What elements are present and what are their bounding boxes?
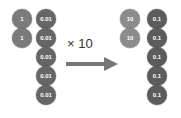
- counter-tenth: 0.1: [147, 85, 167, 105]
- after-tens-column: 1010: [120, 9, 140, 47]
- before-hundredths-column: 0.010.010.010.010.01: [36, 9, 56, 104]
- counter-hundredth: 0.01: [36, 28, 56, 48]
- multiply-label: × 10: [67, 36, 93, 51]
- before-ones-column: 11: [12, 9, 32, 47]
- counter-tenth: 0.1: [147, 66, 167, 86]
- counter-ten: 10: [120, 28, 140, 48]
- counter-hundredth: 0.01: [36, 47, 56, 67]
- counter-tenth: 0.1: [147, 9, 167, 29]
- counter-ten: 10: [120, 9, 140, 29]
- counter-one: 1: [12, 28, 32, 48]
- counter-tenth: 0.1: [147, 28, 167, 48]
- counter-tenth: 0.1: [147, 47, 167, 67]
- counter-hundredth: 0.01: [36, 9, 56, 29]
- counter-hundredth: 0.01: [36, 85, 56, 105]
- counter-one: 1: [12, 9, 32, 29]
- counter-hundredth: 0.01: [36, 66, 56, 86]
- arrow-right-icon: [66, 57, 118, 71]
- after-tenths-column: 0.10.10.10.10.1: [147, 9, 167, 104]
